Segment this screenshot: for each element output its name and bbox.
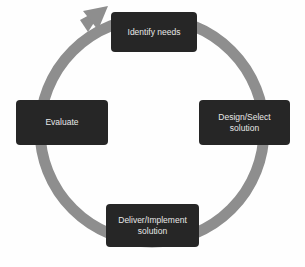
- node-deliver-implement-solution: Deliver/Implement solution: [106, 204, 199, 247]
- node-label: Identify needs: [128, 27, 181, 38]
- node-label: Design/Select solution: [218, 112, 270, 134]
- node-design-select-solution: Design/Select solution: [199, 100, 290, 145]
- node-label: Evaluate: [45, 117, 78, 128]
- node-label: Deliver/Implement solution: [118, 215, 187, 237]
- node-identify-needs: Identify needs: [111, 12, 197, 52]
- node-evaluate: Evaluate: [16, 100, 108, 145]
- cycle-diagram: Identify needs Design/Select solution De…: [0, 0, 305, 267]
